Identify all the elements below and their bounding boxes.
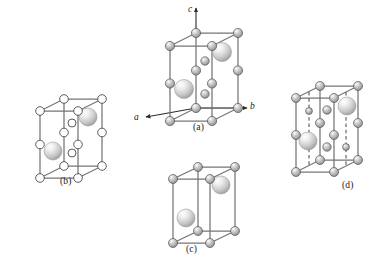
atom-node-hollow [98, 162, 107, 171]
atom-node [194, 163, 203, 172]
axis-label-c: c [188, 4, 192, 14]
atom-node-hollow [36, 107, 45, 116]
atom-node [165, 41, 174, 50]
atom-node-hollow [74, 107, 83, 116]
a-axis-arrow [146, 108, 196, 117]
atom-node [231, 227, 240, 236]
atom-node [231, 163, 240, 172]
panel-caption-a: (a) [193, 122, 204, 132]
atom-node [206, 239, 215, 248]
atom-node [354, 82, 363, 91]
atom-node-hollow [60, 162, 69, 171]
atom-node [292, 168, 301, 177]
atom-node [323, 106, 331, 114]
panel-a-unit-cell [146, 8, 247, 126]
atom-node [354, 156, 363, 165]
atom-node [165, 116, 174, 125]
atom-node-hollow [74, 140, 83, 149]
atom-node [316, 119, 325, 128]
atom-node-small [343, 144, 350, 151]
atom-node [233, 28, 242, 37]
panel-caption-b: (b) [60, 176, 72, 186]
crystal-structure-figure: c a b (a) (b) (c) (d) [0, 0, 391, 269]
atom-node-hollow [36, 174, 45, 183]
atom-node [207, 79, 216, 88]
atom-node-small [306, 108, 313, 115]
axis-label-b: b [250, 101, 255, 111]
atom-node [201, 90, 209, 98]
atom-node [207, 116, 216, 125]
large-sphere [175, 80, 194, 99]
atom-node [233, 103, 242, 112]
atom-node [191, 103, 200, 112]
atom-node-hollow [98, 128, 107, 137]
panel-caption-c: (c) [186, 244, 197, 254]
atom-node [292, 131, 301, 140]
atom-node [330, 131, 339, 140]
large-sphere [299, 132, 317, 150]
large-sphere [338, 97, 356, 115]
atom-node-hollow [68, 149, 76, 157]
atom-node [206, 175, 215, 184]
panel-d-atoms [292, 82, 363, 177]
atom-node-hollow [36, 140, 45, 149]
atom-node [233, 66, 242, 75]
atom-node [194, 227, 203, 236]
atom-node [323, 143, 331, 151]
panel-d-unit-cell [292, 82, 363, 177]
atom-node-hollow [68, 119, 76, 127]
axis-label-a: a [134, 112, 139, 122]
atom-node [191, 28, 200, 37]
panel-c-unit-cell [169, 163, 240, 248]
large-sphere [44, 142, 62, 160]
atom-node-hollow [60, 128, 69, 137]
atom-node [354, 119, 363, 128]
atom-node [207, 41, 216, 50]
atom-node-hollow [98, 95, 107, 104]
panel-caption-d: (d) [342, 180, 354, 190]
atom-node [201, 57, 209, 65]
unit-cell-drawings [0, 0, 391, 269]
atom-node [316, 82, 325, 91]
atom-node [330, 168, 339, 177]
atom-node [169, 175, 178, 184]
atom-node [169, 239, 178, 248]
atom-node [330, 94, 339, 103]
atom-node [165, 79, 174, 88]
atom-node-hollow [60, 95, 69, 104]
atom-node-hollow [74, 174, 83, 183]
atom-node [316, 156, 325, 165]
atom-node [191, 66, 200, 75]
panel-b-unit-cell [36, 95, 107, 183]
atom-node [292, 94, 301, 103]
large-sphere [177, 209, 195, 227]
panel-c-atoms [169, 163, 240, 248]
